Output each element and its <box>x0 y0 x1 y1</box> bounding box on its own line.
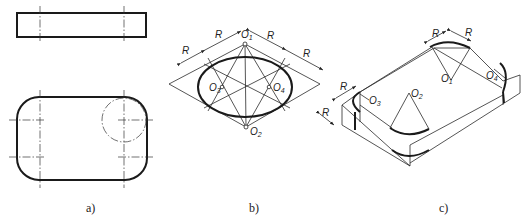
panel-a: a) <box>9 6 154 215</box>
label-o3: O3 <box>209 82 221 94</box>
technical-drawing: a) R R R R O1 O2 O3 O4 b) <box>0 0 524 219</box>
label-c-o4: O4 <box>486 70 498 82</box>
svg-text:R: R <box>465 27 472 38</box>
svg-text:R: R <box>215 29 222 40</box>
svg-text:R: R <box>432 28 439 39</box>
plan-view-rounded-rect <box>17 97 147 180</box>
svg-text:R: R <box>267 30 274 41</box>
panel-b-label: b) <box>249 201 259 215</box>
arc-o3 <box>353 92 360 112</box>
panel-b: R R R R O1 O2 O3 O4 b) <box>169 29 323 215</box>
panel-c-label: c) <box>439 201 448 215</box>
svg-text:R: R <box>182 45 189 56</box>
panel-a-label: a) <box>86 201 95 215</box>
label-o1: O1 <box>241 29 253 41</box>
label-o4: O4 <box>273 82 285 94</box>
label-o2: O2 <box>250 126 262 138</box>
side-view-rect <box>17 13 146 37</box>
label-c-o1: O1 <box>441 73 453 85</box>
svg-text:R: R <box>303 48 310 59</box>
panel-c: R R R R O1 O2 O3 O4 c) <box>320 27 520 215</box>
arc-o2 <box>390 128 429 134</box>
svg-text:R: R <box>340 81 347 92</box>
arc-o1 <box>430 42 470 48</box>
svg-text:R: R <box>322 107 329 118</box>
label-c-o3: O3 <box>369 95 381 107</box>
label-c-o2: O2 <box>411 88 423 100</box>
